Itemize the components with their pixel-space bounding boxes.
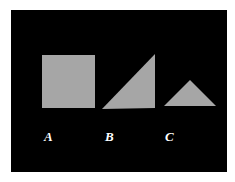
shapes-diagram: A B C bbox=[0, 0, 235, 182]
shape-c-triangle bbox=[164, 80, 216, 106]
shape-b-right-triangle bbox=[102, 54, 155, 109]
shape-a-square bbox=[42, 55, 95, 108]
label-c: C bbox=[165, 129, 174, 144]
label-b: B bbox=[104, 129, 114, 144]
label-a: A bbox=[43, 129, 53, 144]
